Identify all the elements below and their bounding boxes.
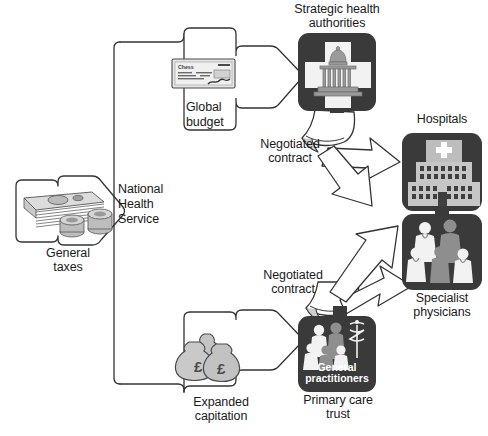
nhs-label-line3: Service: [118, 212, 182, 227]
hospitals-label-text: Hospitals: [402, 113, 482, 127]
negotiated-top-line1: Negotiated: [245, 137, 335, 151]
pct-label-line2: trust: [292, 408, 384, 422]
nhs-bracket-top: [120, 34, 184, 42]
global-budget-line2: budget: [186, 115, 242, 130]
negotiated-bottom-line2: contract: [248, 282, 338, 296]
sha-label-line2: authorities: [272, 17, 402, 31]
cheque-icon: Chess: [172, 59, 235, 88]
gp-inner-line2: practitioners: [298, 373, 376, 384]
pct-stem: [333, 306, 347, 316]
negotiated-top-line2: contract: [245, 151, 335, 165]
label-global-budget: Global budget: [186, 100, 242, 130]
label-specialist-physicians: Specialist physicians: [397, 292, 487, 319]
pound-symbol-left: £: [194, 358, 203, 375]
nhs-label-line2: Health: [118, 197, 182, 212]
expanded-capitation-line1: Expanded: [176, 395, 266, 409]
general-taxes-line2: taxes: [18, 261, 118, 275]
node-strategic-health-authorities[interactable]: [298, 33, 376, 111]
global-budget-line1: Global: [186, 100, 242, 115]
general-taxes-line1: General: [18, 247, 118, 261]
label-expanded-capitation: Expanded capitation: [176, 395, 266, 423]
pound-symbol-right: £: [217, 360, 226, 377]
label-hospitals: Hospitals: [402, 113, 482, 127]
specialist-label-line2: physicians: [397, 306, 487, 320]
label-general-taxes: General taxes: [18, 247, 118, 274]
node-hospitals[interactable]: [402, 133, 482, 211]
cheque-payee-text: Chess: [178, 64, 194, 70]
specialist-label-line1: Specialist: [397, 292, 487, 306]
node-specialist-physicians[interactable]: [402, 214, 482, 290]
negotiated-bottom-line1: Negotiated: [248, 268, 338, 282]
label-primary-care-trust: Primary care trust: [292, 394, 384, 421]
nhs-label-line1: National: [118, 182, 182, 197]
label-national-health-service: National Health Service: [118, 182, 182, 227]
gp-inner-label: General practitioners: [298, 362, 376, 384]
diagram-canvas: Chess £ £: [0, 0, 488, 436]
label-negotiated-contract-top: Negotiated contract: [245, 137, 335, 165]
expanded-capitation-line2: capitation: [176, 409, 266, 423]
nhs-bracket-bottom: [120, 384, 184, 392]
label-strategic-health-authorities: Strategic health authorities: [272, 3, 402, 30]
pct-label-line1: Primary care: [292, 394, 384, 408]
sha-label-line1: Strategic health: [272, 3, 402, 17]
label-negotiated-contract-bottom: Negotiated contract: [248, 268, 338, 296]
